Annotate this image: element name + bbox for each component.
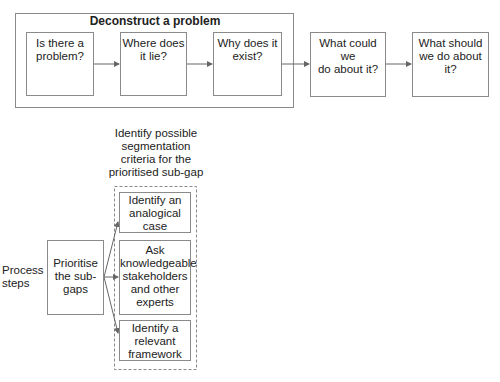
option-line: and other [120, 283, 190, 296]
step-where-does-it-lie: Where does it lie? [120, 32, 187, 96]
step-label-line: do about it? [311, 63, 385, 76]
step-label: What could we do about it? [311, 37, 385, 76]
step-label-line: Where does [121, 37, 186, 50]
prioritise-line: Prioritise [48, 257, 103, 270]
step-what-could-we-do: What could we do about it? [310, 32, 386, 97]
caption-line: Identify possible [100, 127, 212, 140]
option-line: Identify a [120, 322, 190, 335]
step-is-there-a-problem: Is there a problem? [26, 32, 94, 96]
option-label: Identify a relevant framework [120, 322, 190, 361]
step-label: Why does it exist? [214, 37, 281, 63]
step-label-line: we do about it? [413, 50, 488, 76]
option-line: relevant [120, 335, 190, 348]
option-relevant-framework: Identify a relevant framework [119, 320, 191, 361]
step-what-should-we-do: What should we do about it? [412, 32, 489, 97]
option-line: stakeholders [120, 270, 190, 283]
option-line: Identify an [120, 194, 190, 207]
step-label-line: exist? [214, 50, 281, 63]
prioritise-sub-gaps-box: Prioritise the sub- gaps [47, 240, 104, 315]
step-label: Is there a problem? [27, 37, 93, 63]
step-label-line: problem? [27, 50, 93, 63]
option-line: case [120, 220, 190, 233]
step-label-line: What could we [311, 37, 385, 63]
step-label-line: Is there a [27, 37, 93, 50]
option-label: Identify an analogical case [120, 194, 190, 233]
option-line: knowledgeable [120, 257, 190, 270]
step-label-line: it lie? [121, 50, 186, 63]
step-label: What should we do about it? [413, 37, 488, 76]
option-line: Ask [120, 244, 190, 257]
caption-line: criteria for the [100, 153, 212, 166]
prioritise-line: gaps [48, 283, 103, 296]
arrow-to-framework [104, 277, 118, 333]
arrow-to-analogical [104, 222, 118, 277]
prioritise-line: the sub- [48, 270, 103, 283]
option-label: Ask knowledgeable stakeholders and other… [120, 244, 190, 309]
process-steps-line: steps [2, 277, 44, 290]
option-ask-stakeholders: Ask knowledgeable stakeholders and other… [119, 240, 191, 315]
caption-line: prioritised sub-gap [100, 166, 212, 179]
caption-line: segmentation [100, 140, 212, 153]
step-label-line: Why does it [214, 37, 281, 50]
option-analogical-case: Identify an analogical case [119, 192, 191, 233]
prioritise-label: Prioritise the sub- gaps [48, 257, 103, 296]
step-label: Where does it lie? [121, 37, 186, 63]
segmentation-caption: Identify possible segmentation criteria … [100, 127, 212, 179]
step-label-line: What should [413, 37, 488, 50]
process-steps-line: Process [2, 264, 44, 277]
deconstruct-title: Deconstruct a problem [16, 15, 294, 28]
option-line: experts [120, 296, 190, 309]
process-steps-label: Process steps [2, 264, 44, 290]
step-why-does-it-exist: Why does it exist? [213, 32, 282, 96]
option-line: framework [120, 348, 190, 361]
option-line: analogical [120, 207, 190, 220]
